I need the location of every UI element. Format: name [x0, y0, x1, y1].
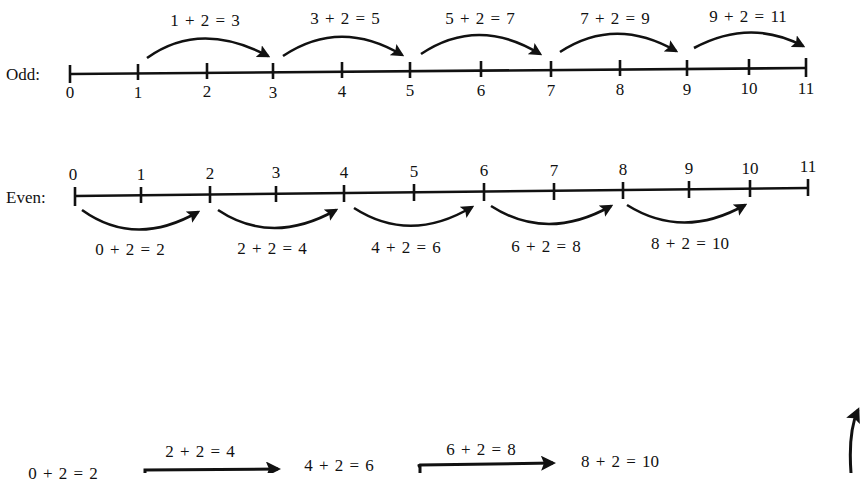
chain-equation: 0 + 2 = 2	[28, 465, 98, 482]
even-tick-label: 11	[800, 158, 816, 175]
odd-number-line	[70, 58, 806, 83]
odd-jump-equation: 9 + 2 = 11	[709, 8, 787, 25]
odd-tick-label: 9	[683, 81, 692, 98]
even-tick-label: 10	[742, 160, 759, 177]
even-row-label: Even:	[6, 189, 46, 206]
odd-tick-label: 7	[547, 82, 556, 99]
odd-jump-arrows	[147, 32, 803, 58]
even-tick-label: 0	[69, 166, 78, 183]
odd-tick-label: 5	[406, 82, 415, 99]
chain-equation: 4 + 2 = 6	[304, 457, 374, 474]
odd-tick-label: 2	[203, 83, 212, 100]
even-jump-arrows	[82, 205, 745, 230]
chain-equation: 6 + 2 = 8	[446, 441, 516, 458]
even-tick-label: 5	[410, 163, 419, 180]
odd-jump-equation: 7 + 2 = 9	[580, 10, 650, 27]
odd-tick-label: 6	[477, 82, 486, 99]
even-tick-label: 2	[206, 165, 215, 182]
odd-tick-label: 3	[269, 84, 278, 101]
even-tick-label: 8	[619, 161, 628, 178]
even-number-line	[75, 179, 808, 206]
even-jump-equation: 6 + 2 = 8	[511, 238, 581, 255]
odd-row-label: Odd:	[6, 66, 40, 83]
odd-jump-equation: 1 + 2 = 3	[170, 12, 240, 29]
odd-tick-label: 0	[66, 84, 75, 101]
even-tick-label: 3	[272, 164, 281, 181]
even-tick-label: 7	[550, 162, 559, 179]
odd-tick-label: 11	[798, 80, 814, 97]
even-jump-equation: 0 + 2 = 2	[95, 241, 165, 258]
odd-jump-equation: 5 + 2 = 7	[445, 10, 515, 27]
even-tick-label: 9	[685, 160, 694, 177]
chain-equation: 2 + 2 = 4	[165, 443, 235, 460]
odd-tick-label: 8	[616, 81, 625, 98]
even-tick-label: 1	[137, 166, 146, 183]
even-jump-equation: 8 + 2 = 10	[651, 235, 729, 252]
even-tick-label: 6	[480, 162, 489, 179]
odd-tick-label: 10	[741, 80, 758, 97]
even-jump-equation: 4 + 2 = 6	[371, 239, 441, 256]
odd-tick-label: 4	[338, 83, 347, 100]
even-tick-label: 4	[340, 164, 349, 181]
odd-tick-label: 1	[134, 84, 143, 101]
even-jump-equation: 2 + 2 = 4	[237, 240, 307, 257]
odd-jump-equation: 3 + 2 = 5	[310, 10, 380, 27]
chain-equation: 8 + 2 = 10	[581, 453, 659, 470]
